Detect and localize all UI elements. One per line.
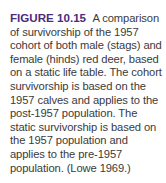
figure-caption: FIGURE 10.15 A comparison of survivorshi… bbox=[10, 11, 162, 175]
caption-text: A comparison of survivorship of the 1957… bbox=[10, 12, 162, 174]
figure-label: FIGURE 10.15 bbox=[10, 11, 86, 24]
